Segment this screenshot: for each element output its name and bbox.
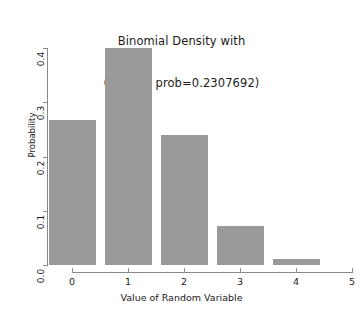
plot-area: 0.0 0.1 0.2 0.3 0.4 0 1 2 3 4 5 [0, 0, 363, 317]
y-tick-label-4: 0.4 [36, 48, 46, 70]
x-tick-label-2: 2 [174, 276, 194, 287]
y-tick-label-0: 0.0 [36, 265, 46, 287]
bar-value-3 [217, 226, 264, 265]
x-tick-mark-3 [240, 268, 241, 272]
y-tick-label-3: 0.3 [36, 102, 46, 124]
y-tick-label-1: 0.1 [36, 211, 46, 233]
bar-value-2 [161, 135, 208, 265]
x-tick-mark-4 [296, 268, 297, 272]
x-tick-label-0: 0 [62, 276, 82, 287]
x-tick-mark-0 [72, 268, 73, 272]
x-tick-label-1: 1 [118, 276, 138, 287]
x-axis-line [72, 272, 353, 273]
x-tick-mark-2 [184, 268, 185, 272]
bar-value-1 [105, 48, 152, 265]
y-tick-label-2: 0.2 [36, 157, 46, 179]
x-tick-label-4: 4 [286, 276, 306, 287]
x-tick-mark-1 [128, 268, 129, 272]
x-tick-label-3: 3 [230, 276, 250, 287]
binomial-density-chart: Binomial Density with (size=5, prob=0.23… [0, 0, 363, 317]
x-axis-title: Value of Random Variable [0, 292, 363, 303]
y-axis-title: Probability [27, 113, 37, 158]
x-tick-label-5: 5 [342, 276, 362, 287]
x-tick-mark-5 [352, 268, 353, 272]
bar-value-4 [273, 259, 320, 265]
bar-value-0 [49, 120, 96, 265]
